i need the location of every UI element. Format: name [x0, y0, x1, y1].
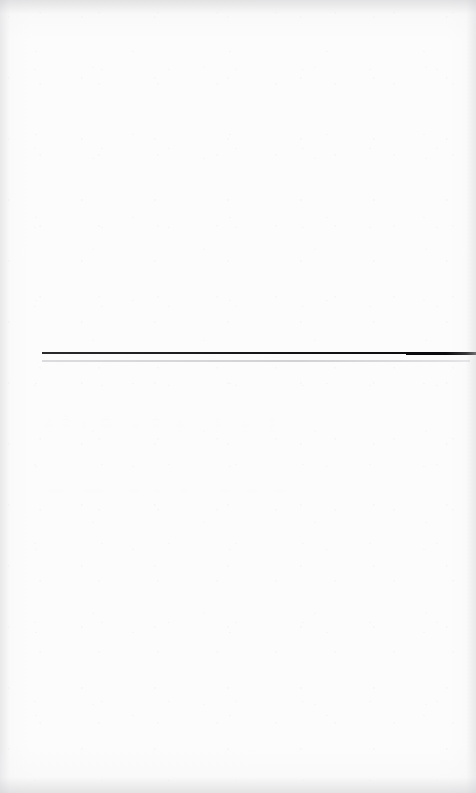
- paper-grain-texture: [0, 0, 476, 793]
- scanned-page: [0, 0, 476, 793]
- page-edge-vignette: [0, 0, 476, 793]
- horizontal-rule-secondary: [42, 360, 470, 362]
- horizontal-rule-primary: [42, 352, 476, 354]
- faded-heading-ink-remnants: [40, 406, 286, 438]
- faded-subline-ink-remnants: [42, 486, 300, 495]
